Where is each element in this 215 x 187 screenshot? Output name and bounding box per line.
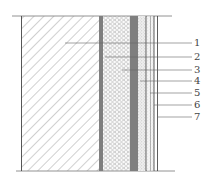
insulation-layer xyxy=(103,16,130,171)
callout-label-2: 2 xyxy=(194,52,200,62)
callout-label-7: 7 xyxy=(194,112,200,122)
callout-label-3: 3 xyxy=(194,65,200,75)
callout-label-4: 4 xyxy=(194,76,200,86)
callout-label-5: 5 xyxy=(194,88,200,98)
callout-label-6: 6 xyxy=(194,100,200,110)
wall-layer xyxy=(21,16,99,171)
render-layer xyxy=(130,16,138,171)
wall-section-diagram xyxy=(0,0,215,187)
adhesive-layer xyxy=(99,16,103,171)
plaster-layer xyxy=(138,16,146,171)
callout-label-1: 1 xyxy=(194,38,200,48)
